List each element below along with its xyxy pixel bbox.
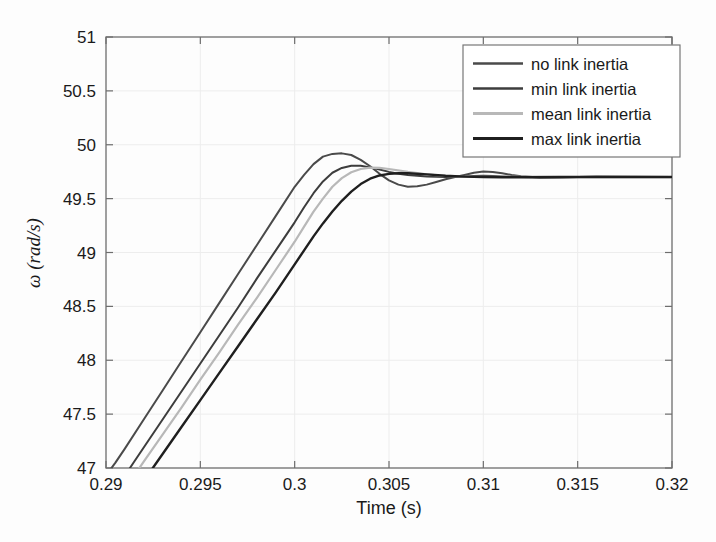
x-tick-label: 0.32 [655, 475, 688, 494]
legend-label-2: mean link inertia [531, 105, 652, 123]
x-axis-title: Time (s) [356, 498, 421, 518]
chart-legend: no link inertiamin link inertiamean link… [463, 45, 680, 157]
data-series-2 [134, 168, 672, 476]
y-tick-label: 48 [77, 351, 96, 370]
x-tick-label: 0.315 [556, 475, 599, 494]
x-tick-labels: 0.290.2950.30.3050.310.3150.32 [89, 475, 688, 494]
y-tick-label: 47 [77, 459, 96, 478]
y-tick-label: 49 [77, 244, 96, 263]
y-tick-label: 50 [77, 136, 96, 155]
y-axis-title: ω (rad/s) [23, 218, 45, 288]
y-tick-label: 50.5 [63, 82, 96, 101]
x-tick-label: 0.31 [467, 475, 500, 494]
legend-label-3: max link inertia [531, 130, 642, 148]
legend-label-1: min link inertia [531, 80, 637, 98]
y-tick-label: 47.5 [63, 405, 96, 424]
x-tick-label: 0.295 [179, 475, 222, 494]
y-tick-label: 48.5 [63, 297, 96, 316]
y-tick-labels: 4747.54848.54949.55050.551 [63, 28, 96, 478]
y-tick-label: 51 [77, 28, 96, 47]
legend-label-0: no link inertia [531, 55, 629, 73]
chart-plot: 0.290.2950.30.3050.310.3150.32 4747.5484… [0, 0, 716, 542]
x-tick-label: 0.305 [368, 475, 411, 494]
y-tick-label: 49.5 [63, 190, 96, 209]
x-tick-label: 0.3 [283, 475, 307, 494]
figure-canvas: 0.290.2950.30.3050.310.3150.32 4747.5484… [0, 0, 716, 542]
